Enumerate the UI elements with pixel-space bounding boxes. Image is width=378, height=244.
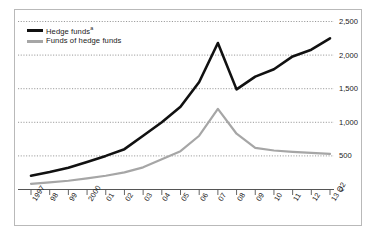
legend-label-hedge-funds: Hedge fundsa <box>46 25 93 36</box>
legend-text-hedge-funds: Hedge funds <box>46 27 90 36</box>
x-axis <box>18 190 334 196</box>
y-tick-label: 2,000 <box>339 51 358 60</box>
legend-label-funds-of-hedge-funds: Funds of hedge funds <box>46 36 121 45</box>
y-tick-label: 2,500 <box>339 17 358 26</box>
y-tick-label: 1,500 <box>339 84 358 93</box>
legend-superscript-hedge-funds: a <box>90 25 93 31</box>
y-tick-label: 500 <box>339 151 352 160</box>
y-tick-label: 1,000 <box>339 118 358 127</box>
series-line-hedge-funds <box>31 38 330 175</box>
chart-figure: Hedge fundsa Funds of hedge funds 2,5002… <box>0 0 378 244</box>
series-line-funds-of-hedge-funds <box>31 109 330 184</box>
legend-swatch-funds-of-hedge-funds <box>27 40 43 43</box>
legend-swatch-hedge-funds <box>27 29 43 32</box>
data-series <box>31 38 330 183</box>
